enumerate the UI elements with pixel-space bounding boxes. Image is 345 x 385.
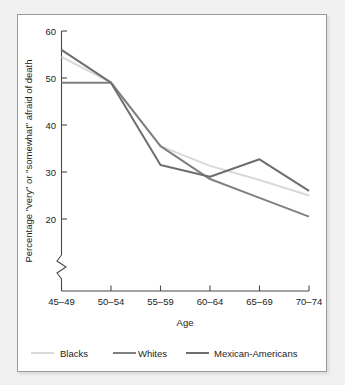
legend-label-blacks: Blacks	[60, 348, 88, 359]
x-tick-label-55-59: 55–59	[147, 296, 173, 307]
legend-label-mexican-americans: Mexican-Americans	[214, 348, 298, 359]
x-axis-title: Age	[177, 317, 194, 328]
figure-panel: 60 50 40 30 20 45–49 50–54 55–59 60–64 6…	[17, 14, 327, 372]
x-tick-label-65-69: 65–69	[246, 296, 272, 307]
y-axis-title: Percentage "very" or "somewhat" afraid o…	[23, 59, 34, 262]
x-tick-label-60-64: 60–64	[197, 296, 223, 307]
series-line-mexican-americans	[62, 50, 310, 191]
y-tick-label-20: 20	[45, 214, 56, 225]
y-tick-label-40: 40	[45, 120, 56, 131]
x-tick-label-45-49: 45–49	[48, 296, 74, 307]
series-group	[62, 50, 310, 217]
legend: Blacks Whites Mexican-Americans	[31, 348, 298, 359]
series-line-blacks	[62, 57, 310, 196]
x-tick-label-70-74: 70–74	[296, 296, 322, 307]
x-ticks	[62, 286, 310, 292]
x-tick-label-50-54: 50–54	[98, 296, 124, 307]
series-line-whites	[62, 83, 310, 217]
legend-label-whites: Whites	[138, 348, 167, 359]
y-tick-label-60: 60	[45, 26, 56, 37]
line-chart: 60 50 40 30 20 45–49 50–54 55–59 60–64 6…	[18, 15, 328, 373]
y-axis	[57, 31, 66, 291]
y-tick-label-30: 30	[45, 167, 56, 178]
y-tick-labels: 60 50 40 30 20	[45, 26, 56, 225]
y-tick-label-50: 50	[45, 73, 56, 84]
x-tick-labels: 45–49 50–54 55–59 60–64 65–69 70–74	[48, 296, 322, 307]
